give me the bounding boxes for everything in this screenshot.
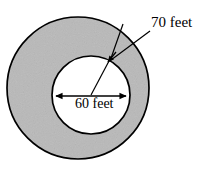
outer-radius-label: 70 feet bbox=[151, 15, 192, 30]
inner-diameter-label: 60 feet bbox=[75, 97, 113, 111]
diagram-page: 70 feet 60 feet bbox=[0, 0, 215, 181]
